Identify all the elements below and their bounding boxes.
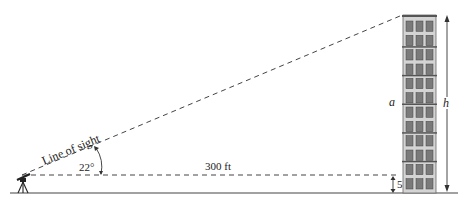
- theodolite-icon: [17, 174, 30, 193]
- building-window: [426, 64, 433, 74]
- building-window: [406, 121, 413, 131]
- building-window: [426, 35, 433, 45]
- building-window: [406, 21, 413, 31]
- building-window: [426, 136, 433, 146]
- building-window: [406, 50, 413, 60]
- height-arrow-top: [391, 176, 396, 180]
- building-window: [426, 78, 433, 88]
- building-window: [416, 150, 423, 160]
- building-window: [406, 179, 413, 189]
- h-arrow-top: [445, 15, 450, 22]
- building-window: [426, 150, 433, 160]
- building-window: [426, 107, 433, 117]
- building-window: [416, 179, 423, 189]
- building-window: [416, 21, 423, 31]
- building-window: [416, 136, 423, 146]
- building-window: [426, 164, 433, 174]
- building-window: [426, 121, 433, 131]
- building-window: [406, 93, 413, 103]
- h-arrow-bottom: [445, 185, 450, 192]
- height-h-label: h: [443, 96, 449, 110]
- building-window: [426, 21, 433, 31]
- building-window: [406, 136, 413, 146]
- building-window: [426, 50, 433, 60]
- building-window: [416, 78, 423, 88]
- building-window: [406, 64, 413, 74]
- segment-a-label: a: [389, 95, 395, 109]
- building: [402, 15, 437, 193]
- diagram-canvas: Line of sight 22° 300 ft 5 ft a h: [0, 0, 461, 204]
- building-window: [406, 78, 413, 88]
- building-window: [416, 107, 423, 117]
- distance-label: 300 ft: [205, 160, 231, 172]
- angle-label: 22°: [79, 161, 94, 173]
- building-window: [426, 179, 433, 189]
- building-window: [416, 121, 423, 131]
- angle-arc: [96, 148, 102, 174]
- angle-arrow-bottom: [99, 171, 103, 175]
- building-window: [406, 107, 413, 117]
- building-window: [416, 93, 423, 103]
- building-window: [416, 35, 423, 45]
- building-window: [416, 50, 423, 60]
- building-window: [416, 164, 423, 174]
- building-window: [406, 150, 413, 160]
- building-window: [406, 164, 413, 174]
- building-window: [406, 35, 413, 45]
- building-window: [426, 93, 433, 103]
- building-window: [416, 64, 423, 74]
